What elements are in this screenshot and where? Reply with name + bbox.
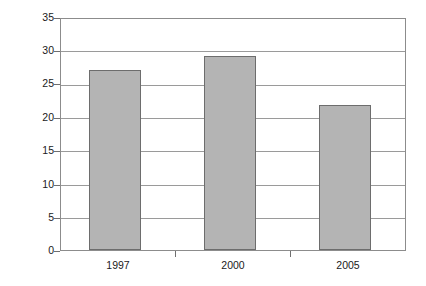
bar-chart-figure: Income (million) 35 30 25 20 15 10 5 0 (0, 0, 426, 286)
x-tick-mark-1 (175, 251, 176, 257)
x-tick-label-2005: 2005 (313, 259, 383, 272)
bar-2005[interactable] (319, 105, 371, 250)
bar-2000[interactable] (204, 56, 256, 250)
y-tick-label-5: 5 (30, 212, 54, 223)
x-tick-label-1997: 1997 (83, 259, 153, 272)
y-tick-mark-0 (54, 251, 60, 252)
y-tick-label-30: 30 (30, 45, 54, 56)
y-tick-label-25: 25 (30, 78, 54, 89)
y-tick-label-20: 20 (30, 112, 54, 123)
gridline-30 (61, 51, 405, 52)
bar-1997[interactable] (89, 70, 141, 250)
y-tick-label-10: 10 (30, 179, 54, 190)
x-tick-mark-2 (290, 251, 291, 257)
y-tick-label-15: 15 (30, 145, 54, 156)
y-tick-label-0: 0 (30, 245, 54, 256)
x-tick-label-2000: 2000 (198, 259, 268, 272)
y-tick-label-35: 35 (30, 12, 54, 23)
plot-area (60, 18, 406, 251)
